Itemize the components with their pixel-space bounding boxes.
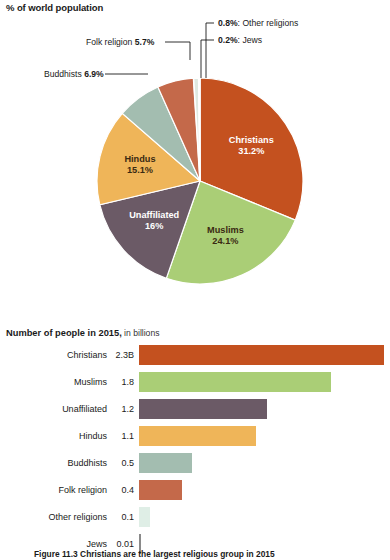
bar-value-buddhists: 0.5 — [110, 458, 134, 468]
pie-slice-label-muslims: Muslims — [207, 225, 244, 235]
bar-value-folk-religion: 0.4 — [110, 485, 134, 495]
callout-other-religions: 0.8%: Other religions — [218, 19, 298, 28]
pie-slice-value-muslims: 24.1% — [212, 236, 238, 246]
bar-value-christians: 2.3B — [110, 350, 134, 360]
pie-slice-label-hindus: Hindus — [124, 154, 155, 164]
pie-slice-group — [97, 78, 303, 284]
bar-fill-muslims — [139, 372, 331, 392]
callout-buddhists-label: Buddhists — [44, 69, 84, 79]
bar-chart-title-strong: Number of people in 2015, — [6, 328, 122, 338]
pie-slice-value-unaffiliated: 16% — [145, 221, 163, 231]
bar-row: Unaffiliated1.2 — [0, 398, 390, 425]
callout-other-religions-label: Other religions — [242, 18, 298, 28]
bar-chart-title: Number of people in 2015, in billions — [6, 328, 159, 338]
pie-slice-label-unaffiliated: Unaffiliated — [129, 210, 179, 220]
bar-label-folk-religion: Folk religion — [0, 485, 107, 495]
bar-track-hindus — [139, 426, 384, 446]
bar-fill-christians — [139, 345, 384, 365]
bar-row: Christians2.3B — [0, 344, 390, 371]
bar-row: Muslims1.8 — [0, 371, 390, 398]
callout-folk-religion-value: 5.7% — [135, 37, 155, 47]
pie-chart: Christians31.2%Muslims24.1%Unaffiliated1… — [0, 0, 390, 310]
pie-chart-svg: Christians31.2%Muslims24.1%Unaffiliated1… — [0, 0, 390, 310]
callout-buddhists: Buddhists 6.9% — [44, 70, 104, 79]
callout-folk-religion-label: Folk religion — [86, 37, 135, 47]
bar-fill-buddhists — [139, 453, 192, 473]
bar-row: Hindus1.1 — [0, 425, 390, 452]
callout-buddhists-value: 6.9% — [84, 69, 104, 79]
bar-track-buddhists — [139, 453, 384, 473]
bar-label-hindus: Hindus — [0, 431, 107, 441]
bar-track-unaffiliated — [139, 399, 384, 419]
leader-line-folk-religion — [165, 42, 190, 60]
callout-jews-value: 0.2% — [218, 35, 238, 45]
bar-fill-other-religions — [139, 507, 150, 527]
bar-value-hindus: 1.1 — [110, 431, 134, 441]
bar-fill-folk-religion — [139, 480, 182, 500]
callout-jews: 0.2%: Jews — [218, 36, 262, 45]
bar-value-muslims: 1.8 — [110, 377, 134, 387]
bar-chart: Christians2.3BMuslims1.8Unaffiliated1.2H… — [0, 344, 390, 560]
pie-slice-value-hindus: 15.1% — [127, 165, 153, 175]
bar-row: Other religions0.1 — [0, 506, 390, 533]
bar-track-muslims — [139, 372, 384, 392]
bar-row: Buddhists0.5 — [0, 452, 390, 479]
bar-chart-title-light: in billions — [122, 328, 160, 338]
bar-fill-unaffiliated — [139, 399, 267, 419]
bar-label-jews: Jews — [0, 539, 107, 549]
figure-caption: Figure 11.3 Christians are the largest r… — [34, 549, 275, 559]
bar-label-other-religions: Other religions — [0, 512, 107, 522]
callout-other-religions-value: 0.8% — [218, 18, 238, 28]
callout-jews-label: Jews — [242, 35, 262, 45]
leader-line-jews — [201, 40, 214, 78]
callout-folk-religion: Folk religion 5.7% — [86, 38, 154, 47]
bar-row: Folk religion0.4 — [0, 479, 390, 506]
bar-track-other-religions — [139, 507, 384, 527]
pie-slice-value-christians: 31.2% — [238, 146, 264, 156]
bar-track-christians — [139, 345, 384, 365]
bar-track-folk-religion — [139, 480, 384, 500]
bar-value-unaffiliated: 1.2 — [110, 404, 134, 414]
bar-value-jews: 0.01 — [110, 539, 134, 549]
bar-label-buddhists: Buddhists — [0, 458, 107, 468]
bar-label-christians: Christians — [0, 350, 107, 360]
bar-fill-hindus — [139, 426, 256, 446]
bar-value-other-religions: 0.1 — [110, 512, 134, 522]
bar-label-muslims: Muslims — [0, 377, 107, 387]
leader-line-other-religions — [206, 23, 214, 78]
bar-label-unaffiliated: Unaffiliated — [0, 404, 107, 414]
pie-leader-line-group — [105, 23, 214, 78]
pie-slice-label-christians: Christians — [229, 135, 274, 145]
